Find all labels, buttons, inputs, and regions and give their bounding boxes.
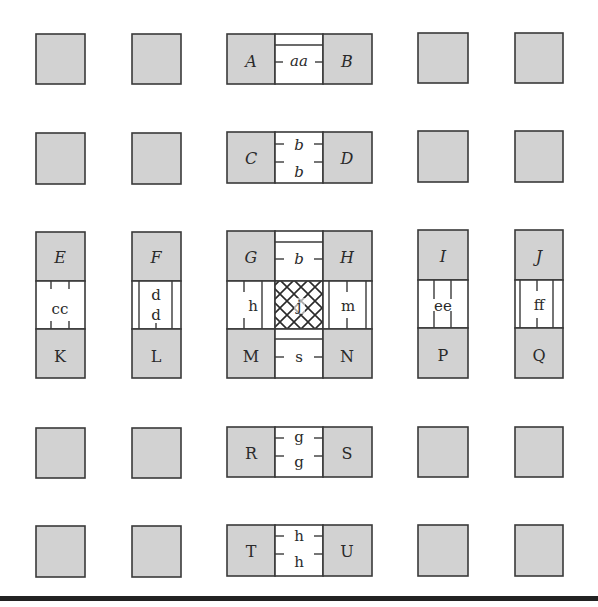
group-f-dd-l: F d d L	[132, 232, 181, 378]
group-central-block: G b H h j m M s N	[227, 231, 372, 378]
label-d-lower: d	[151, 306, 161, 324]
label-a: A	[243, 52, 257, 71]
label-ee: ee	[434, 297, 452, 315]
label-h-band: h	[248, 297, 258, 315]
label-u: U	[340, 542, 353, 561]
label-cc: cc	[52, 300, 69, 318]
label-k: K	[54, 347, 67, 366]
plain-square	[418, 131, 468, 182]
label-h-upper: h	[294, 527, 304, 545]
plain-square	[36, 526, 85, 577]
label-s: s	[295, 348, 303, 366]
plain-square	[132, 526, 181, 577]
group-e-cc-k: E cc K	[36, 232, 85, 378]
plain-square	[515, 33, 563, 83]
plain-square	[36, 34, 85, 84]
group-c-b-d: C b b D	[227, 132, 372, 183]
label-b-center: b	[294, 250, 304, 268]
label-l: L	[151, 347, 162, 366]
label-t: T	[246, 542, 257, 561]
label-r: R	[245, 444, 258, 463]
label-i: I	[439, 247, 447, 266]
plain-square	[418, 427, 468, 477]
label-m-cap: M	[243, 347, 259, 366]
label-g-upper: g	[294, 428, 304, 446]
plain-square	[418, 525, 468, 576]
label-aa: aa	[290, 52, 308, 70]
label-d-upper: d	[151, 286, 161, 304]
label-p: P	[438, 346, 449, 365]
diagram-canvas: A aa B C b b D E cc K F d	[0, 0, 598, 607]
group-a-aa-b: A aa B	[227, 34, 372, 84]
plain-square	[418, 33, 468, 83]
label-ff: ff	[534, 296, 546, 314]
group-r-g-s: R g g S	[227, 427, 372, 477]
group-i-ee-p: I ee P	[418, 230, 468, 378]
plain-square	[132, 34, 181, 84]
label-m-band: m	[341, 297, 355, 315]
plain-square	[515, 131, 563, 182]
label-g-lower: g	[294, 453, 304, 471]
plain-square	[36, 133, 85, 184]
plain-square	[36, 428, 85, 478]
label-h-lower: h	[294, 553, 304, 571]
plain-square	[515, 427, 563, 477]
label-b-lower: b	[294, 163, 304, 181]
label-b-upper: b	[294, 136, 304, 154]
label-h-cap: H	[339, 248, 355, 267]
plain-square	[132, 428, 181, 478]
label-f: F	[149, 248, 162, 267]
plain-square	[515, 525, 563, 576]
group-t-h-u: T h h U	[227, 525, 372, 576]
bottom-rule	[0, 596, 598, 601]
label-d: D	[340, 149, 354, 168]
group-j-ff-q: J ff Q	[515, 230, 563, 378]
label-c: C	[245, 149, 257, 168]
label-s-cap: S	[342, 444, 353, 463]
label-b: B	[340, 52, 353, 71]
plain-square	[132, 133, 181, 184]
label-q: Q	[532, 346, 545, 365]
label-g: G	[245, 248, 258, 267]
label-n: N	[340, 347, 354, 366]
label-e: E	[53, 248, 66, 267]
